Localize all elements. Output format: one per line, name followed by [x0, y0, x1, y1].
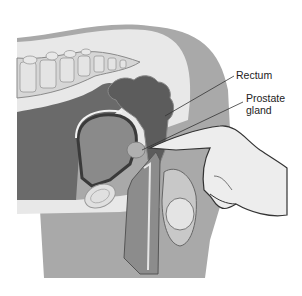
- testis: [166, 198, 194, 230]
- rectum-label: Rectum: [236, 69, 272, 81]
- prostate-label-line1: Prostate: [246, 92, 296, 104]
- anatomy-illustration: [0, 0, 302, 296]
- prostate-gland-label: Prostate gland: [246, 92, 296, 116]
- prostate-label-line2: gland: [246, 104, 296, 116]
